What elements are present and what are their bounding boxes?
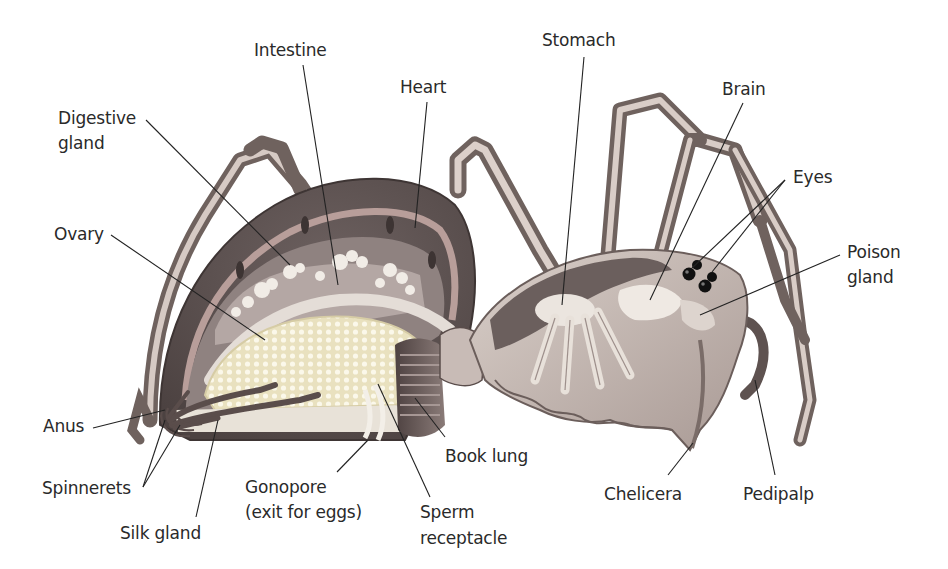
label-digestive-gland-line2: gland [58, 133, 105, 153]
leader-gonopore [337, 440, 368, 472]
spider-anatomy-diagram: Intestine Heart Digestive gland Ovary St… [0, 0, 948, 569]
label-gonopore-line2: (exit for eggs) [245, 502, 362, 522]
label-stomach: Stomach [542, 30, 616, 50]
leader-pedipalp [755, 380, 775, 475]
label-heart: Heart [400, 77, 447, 97]
label-brain: Brain [722, 79, 766, 99]
label-poison-gland-line2: gland [847, 267, 894, 287]
label-book-lung: Book lung [445, 446, 528, 466]
leader-chelicera [668, 443, 693, 475]
leader-spinnerets-1 [143, 420, 165, 487]
label-gonopore-line1: Gonopore [245, 477, 326, 497]
label-ovary: Ovary [54, 224, 104, 244]
label-sperm-receptacle-line2: receptacle [420, 528, 507, 548]
cephalothorax [470, 250, 747, 450]
label-eyes: Eyes [793, 167, 833, 187]
label-sperm-receptacle-line1: Sperm [420, 502, 474, 522]
label-intestine: Intestine [254, 40, 327, 60]
book-lung-shape [395, 339, 445, 437]
label-chelicera: Chelicera [604, 484, 682, 504]
label-spinnerets: Spinnerets [42, 478, 131, 498]
label-digestive-gland-line1: Digestive [58, 108, 136, 128]
label-poison-gland-line1: Poison [847, 242, 901, 262]
label-silk-gland: Silk gland [120, 523, 201, 543]
label-anus: Anus [43, 416, 85, 436]
leader-spinnerets-2 [143, 425, 180, 487]
label-pedipalp: Pedipalp [743, 484, 814, 504]
